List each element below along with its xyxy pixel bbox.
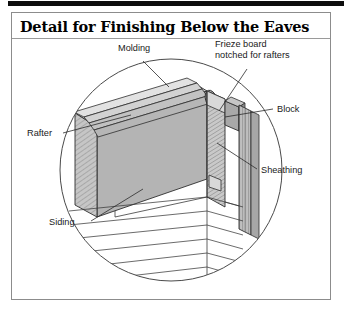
eaves-detail-figure: Molding Frieze board notched for rafters… — [11, 39, 331, 299]
label-siding: Siding — [49, 217, 75, 227]
label-frieze-board-line1: Frieze board — [215, 39, 267, 49]
label-frieze-board-line2: notched for rafters — [215, 50, 290, 60]
label-rafter: Rafter — [27, 128, 52, 138]
label-sheathing: Sheathing — [261, 165, 302, 175]
vignette-contents — [69, 78, 259, 283]
frieze-board — [207, 91, 225, 207]
page-title: Detail for Finishing Below the Eaves — [20, 17, 320, 37]
page-canvas: Detail for Finishing Below the Eaves — [0, 0, 344, 312]
top-black-rule — [8, 1, 344, 6]
sheathing — [239, 105, 259, 239]
label-block: Block — [277, 104, 300, 114]
label-molding: Molding — [118, 43, 150, 53]
